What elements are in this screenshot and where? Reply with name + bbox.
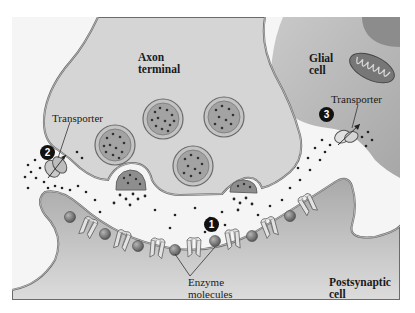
label-transporter-left: Transporter	[52, 112, 103, 124]
label-enzyme-line2: molecules	[188, 288, 233, 300]
label-postsynaptic-cell: Postsynaptic cell	[329, 276, 391, 300]
label-postsynaptic-line1: Postsynaptic	[329, 276, 391, 288]
synapse-diagram	[0, 0, 415, 313]
label-axon-terminal-line2: terminal	[138, 63, 180, 75]
marker-1-badge: 1	[204, 217, 219, 232]
synaptic-vesicle	[95, 125, 135, 165]
label-axon-terminal: Axon terminal	[138, 51, 180, 75]
synaptic-vesicle	[143, 99, 183, 139]
label-transporter-right: Transporter	[331, 93, 382, 105]
synaptic-vesicle	[204, 97, 244, 137]
synaptic-vesicle	[173, 146, 213, 186]
marker-2-badge: 2	[40, 145, 55, 160]
label-glial-cell: Glial cell	[309, 52, 333, 76]
marker-3-badge: 3	[319, 107, 334, 122]
label-axon-terminal-line1: Axon	[138, 51, 180, 63]
label-glial-cell-line1: Glial	[309, 52, 333, 64]
label-glial-cell-line2: cell	[309, 64, 333, 76]
label-postsynaptic-line2: cell	[329, 288, 391, 300]
label-enzyme-line1: Enzyme	[188, 276, 233, 288]
label-enzyme-molecules: Enzyme molecules	[188, 276, 233, 300]
